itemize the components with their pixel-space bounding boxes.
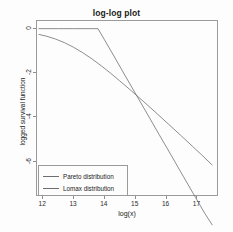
y-tick-mark [33, 72, 36, 73]
x-axis-label: log(x) [36, 210, 218, 217]
x-tick-mark [196, 196, 197, 199]
x-tick-label: 13 [69, 200, 76, 207]
y-tick-mark [33, 28, 36, 29]
x-tick-label: 17 [193, 200, 200, 207]
x-tick-mark [166, 196, 167, 199]
x-tick-label: 12 [39, 200, 46, 207]
y-tick-mark [33, 161, 36, 162]
legend-label-pareto: Pareto distribution [63, 173, 114, 180]
y-tick-label: -4 [25, 111, 32, 121]
legend-swatch-lomax [43, 188, 59, 189]
y-tick-label: -6 [25, 156, 32, 166]
x-tick-label: 15 [131, 200, 138, 207]
series-line-lomax [39, 34, 213, 165]
y-axis-label: logged survival function [19, 52, 26, 172]
y-tick-label: 0 [25, 23, 32, 33]
legend-swatch-pareto [43, 176, 59, 177]
legend-box: Pareto distribution Lomax distribution [38, 165, 128, 196]
y-tick-label: -2 [25, 67, 32, 77]
x-tick-label: 16 [162, 200, 169, 207]
legend-item-pareto: Pareto distribution [43, 171, 114, 181]
chart-title: log-log plot [0, 8, 233, 18]
x-tick-mark [42, 196, 43, 199]
legend-item-lomax: Lomax distribution [43, 183, 114, 193]
chart-root: log-log plot 121314151617 0-2-4-6 log(x)… [0, 0, 233, 232]
legend-label-lomax: Lomax distribution [63, 185, 114, 192]
x-tick-mark [135, 196, 136, 199]
x-tick-mark [73, 196, 74, 199]
y-tick-mark [33, 116, 36, 117]
x-tick-mark [104, 196, 105, 199]
x-tick-label: 14 [100, 200, 107, 207]
